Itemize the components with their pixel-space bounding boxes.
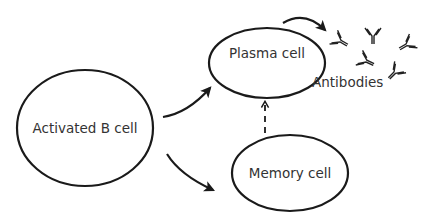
activated-b-cell-node: Activated B cell: [17, 70, 153, 186]
antibody-icon: [356, 50, 377, 71]
arrow-b-cell-to-memory-cell: [167, 154, 213, 190]
antibody-icon: [396, 34, 418, 56]
arrow-plasma-cell-to-antibodies: [283, 18, 325, 30]
antibody-icon: [365, 28, 381, 44]
b-cell-differentiation-diagram: Activated B cell Plasma cell Memory cell…: [0, 0, 432, 224]
arrow-b-cell-to-plasma-cell: [163, 88, 210, 117]
memory-cell-label: Memory cell: [249, 165, 331, 181]
antibody-icon: [383, 61, 406, 84]
plasma-cell-node: Plasma cell: [209, 28, 325, 98]
plasma-cell-ellipse: [209, 28, 325, 98]
plasma-cell-label: Plasma cell: [229, 45, 305, 61]
antibodies-label: Antibodies: [312, 74, 383, 90]
antibody-icon: [330, 30, 352, 52]
memory-cell-node: Memory cell: [232, 135, 348, 211]
activated-b-cell-label: Activated B cell: [33, 120, 138, 136]
